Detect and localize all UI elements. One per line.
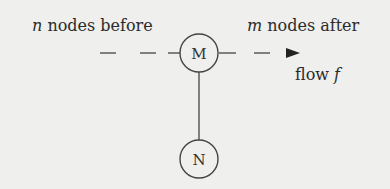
flow-label: flow f xyxy=(295,65,343,84)
node-m: M xyxy=(180,34,218,72)
flow-diagram: n nodes before m nodes after flow f M N xyxy=(0,0,390,189)
after-label: m nodes after xyxy=(247,16,360,35)
node-n-label: N xyxy=(192,151,205,169)
before-label: n nodes before xyxy=(32,16,153,35)
node-n: N xyxy=(180,140,218,178)
arrow-head-icon xyxy=(286,48,300,58)
node-m-label: M xyxy=(191,45,206,63)
